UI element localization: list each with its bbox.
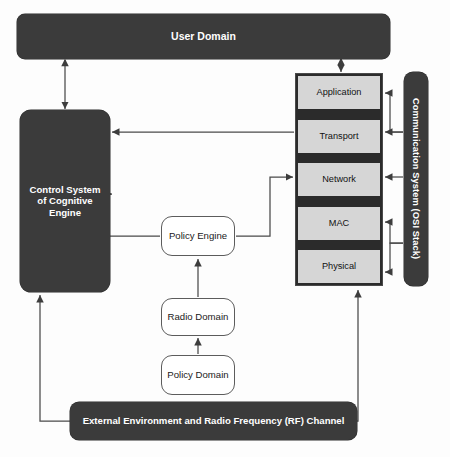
- osi-stack: Application Transport Network MAC Physic…: [295, 73, 383, 286]
- node-user-domain[interactable]: User Domain: [17, 14, 390, 59]
- node-control-system-label: Control System of Cognitive Engine: [24, 184, 106, 218]
- osi-layer-physical[interactable]: Physical: [298, 250, 380, 283]
- node-policy-engine[interactable]: Policy Engine: [161, 216, 235, 256]
- node-control-system[interactable]: Control System of Cognitive Engine: [20, 110, 110, 292]
- edge-policyengine-controlsystem: [103, 194, 160, 236]
- osi-layer-network-label: Network: [322, 174, 356, 185]
- node-communication-system-label: Communication System (OSI Stack): [411, 98, 422, 259]
- osi-layer-application-label: Application: [317, 87, 362, 98]
- edge-commsystem-mac: [385, 222, 403, 243]
- osi-layer-transport-label: Transport: [320, 131, 359, 142]
- node-policy-domain-label: Policy Domain: [167, 369, 228, 380]
- node-policy-engine-label: Policy Engine: [169, 230, 227, 241]
- edge-commsystem-physical: [385, 243, 403, 272]
- osi-layer-network[interactable]: Network: [298, 163, 380, 196]
- node-radio-domain[interactable]: Radio Domain: [161, 298, 235, 336]
- edge-commsystem-application: [385, 93, 403, 132]
- diagram-canvas: User Domain Control System of Cognitive …: [0, 0, 450, 457]
- edge-rfchannel-controlsystem: [40, 295, 70, 421]
- osi-layer-transport[interactable]: Transport: [298, 120, 380, 153]
- node-rf-channel[interactable]: External Environment and Radio Frequency…: [70, 402, 357, 440]
- node-communication-system[interactable]: Communication System (OSI Stack): [404, 72, 428, 286]
- node-rf-channel-label: External Environment and Radio Frequency…: [83, 415, 345, 426]
- node-user-domain-label: User Domain: [171, 30, 236, 42]
- edge-policyengine-network: [236, 177, 293, 236]
- node-policy-domain[interactable]: Policy Domain: [161, 355, 235, 395]
- figure-caption: [18, 447, 258, 457]
- osi-layer-mac[interactable]: MAC: [298, 207, 380, 240]
- osi-layer-application[interactable]: Application: [298, 76, 380, 109]
- node-radio-domain-label: Radio Domain: [168, 311, 229, 322]
- osi-layer-mac-label: MAC: [329, 218, 349, 229]
- osi-layer-physical-label: Physical: [322, 261, 356, 272]
- edge-rfchannel-physical: [357, 290, 358, 421]
